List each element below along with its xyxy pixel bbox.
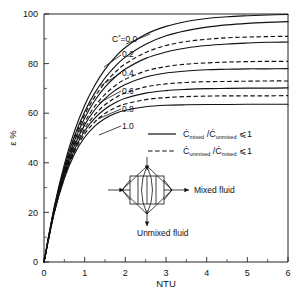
y-tick-label: 0: [33, 257, 38, 267]
curve-label-cstar-1: 0.2: [122, 49, 134, 59]
y-tick-label: 60: [28, 108, 38, 118]
x-tick-label: 6: [285, 268, 290, 278]
y-tick-label: 40: [28, 158, 38, 168]
curve-label-cstar-0: C*=0.0: [112, 34, 138, 44]
curve-label-cstar-5: 1.0: [122, 121, 134, 131]
y-tick-label: 80: [28, 59, 38, 69]
mixed-fluid-label: Mixed fluid: [194, 185, 235, 195]
x-tick-label: 1: [82, 268, 87, 278]
curve-label-cstar-3: 0.6: [122, 86, 134, 96]
chart-background: [0, 0, 307, 307]
effectiveness-ntu-chart: 0123456 020406080100 NTU ε % C*=0.0 0.2 …: [0, 0, 307, 307]
y-tick-label: 20: [28, 208, 38, 218]
chart-figure: 0123456 020406080100 NTU ε % C*=0.0 0.2 …: [0, 0, 307, 307]
unmixed-fluid-label: Unmixed fluid: [137, 228, 189, 238]
curve-label-cstar-4: 0.8: [122, 104, 134, 114]
x-tick-label: 5: [245, 268, 250, 278]
x-tick-label: 0: [41, 268, 46, 278]
y-axis-title: ε %: [7, 130, 18, 146]
x-tick-label: 2: [123, 268, 128, 278]
x-axis-title: NTU: [156, 278, 176, 289]
x-tick-label: 4: [204, 268, 209, 278]
y-tick-label: 100: [23, 9, 38, 19]
x-tick-label: 3: [163, 268, 168, 278]
curve-label-cstar-2: 0.4: [122, 68, 134, 78]
